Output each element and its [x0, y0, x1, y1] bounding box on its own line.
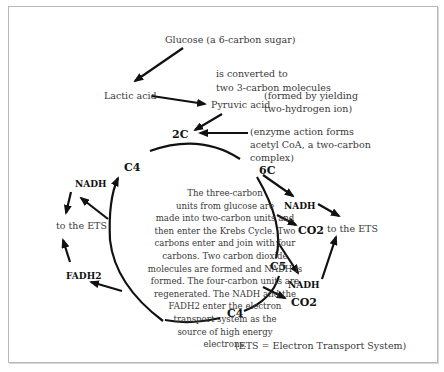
center-line: made into two-carbon units and: [140, 212, 310, 225]
pyruvic-note-line1: (formed by yielding: [264, 90, 358, 101]
fadh2-to-ets-arrow: [63, 240, 70, 262]
center-line: formed. The four-carbon units are: [140, 275, 310, 288]
center-line: then enter the Krebs Cycle. Two: [140, 225, 310, 238]
center-line: source of high energy: [140, 326, 310, 339]
center-description: The three-carbon units from glucose are …: [140, 187, 310, 351]
center-line: units from glucose are: [140, 200, 310, 213]
cycle-to-nadh-left-arrow: [81, 198, 108, 219]
converted-label-line1: is converted to: [216, 68, 288, 79]
cycle-arc-top: [150, 144, 240, 159]
nadh-left-label: NADH: [75, 179, 107, 189]
center-line: transport system as the: [140, 313, 310, 326]
center-line: FADH2 enter the electron: [140, 300, 310, 313]
lactic-acid-label: Lactic acid: [104, 90, 157, 101]
center-line: electrons.: [140, 338, 310, 351]
center-line: carbons. Two carbon dioxide: [140, 250, 310, 263]
enzyme-note-line1: (enzyme action forms: [250, 126, 354, 137]
glucose-to-lactic-arrow: [135, 48, 183, 81]
enzyme-note-line3: complex): [250, 152, 294, 163]
lactic-to-pyruvic-arrow: [152, 96, 205, 104]
node-2c: 2C: [172, 128, 189, 141]
nadh-2-to-ets-arrow: [322, 237, 336, 279]
center-line: molecules are formed and NADH is: [140, 263, 310, 276]
nadh-left-to-ets-arrow: [66, 192, 71, 213]
ets-left-label: to the ETS: [56, 220, 107, 231]
node-c4-left: C4: [124, 161, 141, 174]
cycle-to-fadh2-arrow: [91, 282, 122, 291]
enzyme-note-line2: acetyl CoA, a two-carbon: [250, 139, 371, 150]
nadh-1-to-ets-arrow: [318, 204, 339, 216]
fadh2-label: FADH2: [66, 271, 101, 281]
node-6c: 6C: [259, 164, 276, 177]
pyruvic-to-2c-arrow: [195, 114, 222, 130]
center-line: The three-carbon: [140, 187, 310, 200]
pyruvic-note-line2: two-hydrogen ion): [264, 103, 352, 114]
ets-right-label: to the ETS: [327, 223, 378, 234]
pyruvic-acid-label: Pyruvic acid: [211, 99, 270, 110]
center-line: carbons enter and join with four: [140, 237, 310, 250]
center-line: regenerated. The NADH and the: [140, 288, 310, 301]
glucose-label: Glucose (a 6-carbon sugar): [165, 34, 295, 45]
